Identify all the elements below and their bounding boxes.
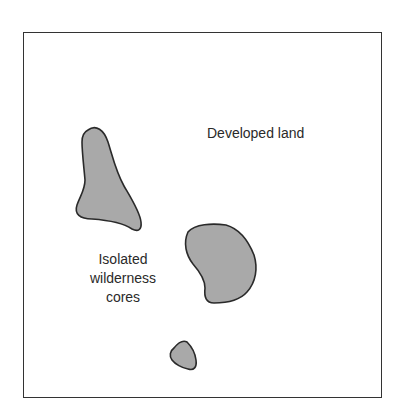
wilderness-cores-label: Isolated wilderness cores bbox=[80, 250, 166, 307]
map-frame bbox=[24, 33, 382, 398]
cores-label-line-3: cores bbox=[80, 288, 166, 307]
cores-label-line-2: wilderness bbox=[80, 269, 166, 288]
cores-label-line-1: Isolated bbox=[80, 250, 166, 269]
diagram: Developed land Isolated wilderness cores bbox=[0, 0, 402, 413]
developed-land-label: Developed land bbox=[207, 124, 304, 143]
diagram-canvas bbox=[0, 0, 402, 413]
